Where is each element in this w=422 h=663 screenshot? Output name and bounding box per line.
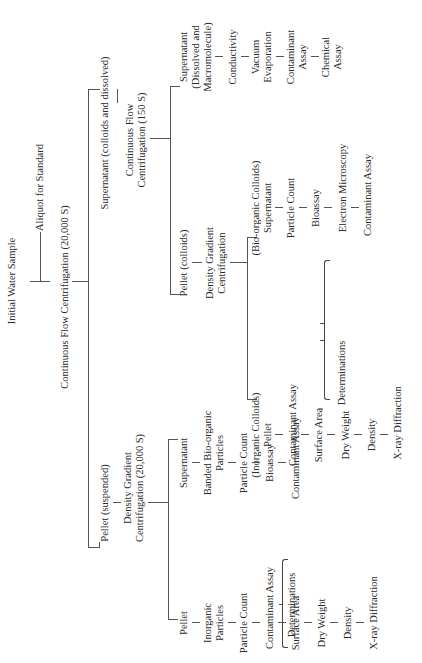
connector xyxy=(311,56,319,57)
node-dgc: Density GradientCentrifugation xyxy=(204,227,228,299)
connector xyxy=(228,622,236,623)
connector xyxy=(247,238,248,400)
connector xyxy=(278,462,286,463)
step-vacuum-evaporation: VacuumEvaporation xyxy=(250,31,274,82)
node-pellet-colloids: Pellet (colloids) xyxy=(178,230,190,297)
connector xyxy=(192,462,200,463)
sup2-line3: Macromolecule) xyxy=(202,22,213,91)
connector xyxy=(356,622,364,623)
sup2-line2: (Dissolved and xyxy=(190,25,201,88)
step-chemical: Chemical xyxy=(320,37,331,77)
step-density: Density xyxy=(342,607,354,640)
brace-tip xyxy=(279,604,283,605)
connector xyxy=(304,622,312,623)
connector xyxy=(168,440,169,620)
step-contaminant: Contaminant xyxy=(285,30,296,84)
step-assay-2: Assay xyxy=(332,44,343,70)
node-aliquot: Aliquot for Standard xyxy=(34,144,46,231)
connector xyxy=(327,434,335,435)
dgc1-line2: Centrifugation (20,000 S) xyxy=(134,434,145,542)
step-dry-weight: Dry Weight xyxy=(340,411,352,460)
connector xyxy=(72,281,88,282)
node-supernatant-dissolved: Supernatant(Dissolved andMacromolecule) xyxy=(178,22,214,91)
step-bioassay: Bioassay xyxy=(310,189,322,227)
connector xyxy=(252,462,260,463)
connector xyxy=(228,462,236,463)
step-particle-count: Particle Count xyxy=(238,593,250,653)
step-x-ray-diffraction: X-ray Diffraction xyxy=(392,386,404,460)
connector xyxy=(168,439,178,440)
node-dgc-20000: Density GradientCentrifugation (20,000 S… xyxy=(122,434,146,542)
sup2-line1: Supernatant xyxy=(178,32,189,82)
banded-line2: Particles xyxy=(214,435,225,471)
node-pellet: Pellet xyxy=(178,611,190,635)
connector xyxy=(117,89,118,103)
brace-tip xyxy=(320,340,324,341)
node-cf-20000: Continuous Flow Centrifugation (20,000 S… xyxy=(59,205,71,388)
connector xyxy=(230,262,247,263)
node-banded-bio-organic: Banded Bio-organicParticles xyxy=(202,411,226,496)
step-x-ray-diffraction: X-ray Diffraction xyxy=(368,576,380,650)
step-assay: Assay xyxy=(297,44,308,70)
connector xyxy=(113,502,121,503)
step-density: Density xyxy=(366,419,378,452)
connector xyxy=(170,87,171,295)
connector xyxy=(301,434,309,435)
connector xyxy=(299,207,307,208)
connector xyxy=(330,622,338,623)
connector xyxy=(148,502,168,503)
dgc1-line1: Density Gradient xyxy=(122,452,133,524)
banded-line1: Banded Bio-organic xyxy=(202,411,213,496)
bio-colloids-line1: (Bio-organic Colloids) xyxy=(250,160,261,255)
node-bio-organic-colloids: (Bio-organic Colloids)Supernatant xyxy=(250,160,274,255)
step-contaminant-assay: Contaminant Assay xyxy=(264,567,276,649)
step-chemical-assay: ChemicalAssay xyxy=(320,37,344,77)
connector xyxy=(168,619,178,620)
dgc2-line1: Density Gradient xyxy=(204,227,215,299)
label-determinations-a: Determinations xyxy=(336,341,348,406)
connector xyxy=(324,207,332,208)
node-pellet-suspended: Pellet (suspended) xyxy=(99,464,111,541)
determinations-brace-a xyxy=(324,260,330,400)
step-contaminant-assay: Contaminant Assay xyxy=(362,154,374,236)
connector xyxy=(192,262,202,263)
step-evaporation: Evaporation xyxy=(262,31,273,82)
connector xyxy=(99,542,100,548)
cf2-line2: Centrifugation (150 S) xyxy=(136,92,147,187)
connector xyxy=(192,622,200,623)
dgc2-line2: Centrifugation xyxy=(216,232,227,293)
connector xyxy=(40,232,41,282)
node-supernatant-suspended: Supernatant xyxy=(178,438,190,488)
step-particle-count: Particle Count xyxy=(285,178,297,238)
step-surface-area: Surface Area xyxy=(313,408,325,463)
step-electron-microscopy: Electron Microscopy xyxy=(337,144,349,232)
connector xyxy=(354,434,362,435)
node-initial-water-sample: Initial Water Sample xyxy=(6,238,18,324)
connector xyxy=(150,138,170,139)
step-conductivity: Conductivity xyxy=(227,30,239,85)
connector xyxy=(215,56,223,57)
label-determinations-b: Determinations xyxy=(286,573,298,638)
flowchart-canvas: Initial Water Sample Aliquot for Standar… xyxy=(0,0,422,663)
step-particle-count: Particle Count xyxy=(238,433,250,493)
connector xyxy=(252,622,260,623)
node-supernatant-colloids-dissolved: Supernatant (colloids and dissolved) xyxy=(99,56,111,209)
bio-colloids-line2: Supernatant xyxy=(262,183,273,233)
node-inorganic-particles: InorganicParticles xyxy=(202,603,226,643)
inorg-particles-line1: Inorganic xyxy=(202,603,213,643)
connector xyxy=(88,90,89,548)
connector xyxy=(351,207,359,208)
step-bioassay: Bioassay xyxy=(264,444,276,482)
step-contaminant-assay: Contaminant Assay xyxy=(290,417,302,499)
connector xyxy=(276,56,284,57)
inorg-particles-line2: Particles xyxy=(214,605,225,641)
connector xyxy=(380,434,388,435)
node-cf-150: Continuous FlowCentrifugation (150 S) xyxy=(124,92,148,187)
step-contaminant-assay: ContaminantAssay xyxy=(285,30,309,84)
connector xyxy=(241,56,249,57)
inorg-colloids-line1: (Inorganic Colloids) xyxy=(250,392,261,477)
step-dry-weight: Dry Weight xyxy=(316,599,328,648)
connector xyxy=(275,207,283,208)
step-vacuum: Vacuum xyxy=(250,40,261,74)
connector xyxy=(275,434,283,435)
